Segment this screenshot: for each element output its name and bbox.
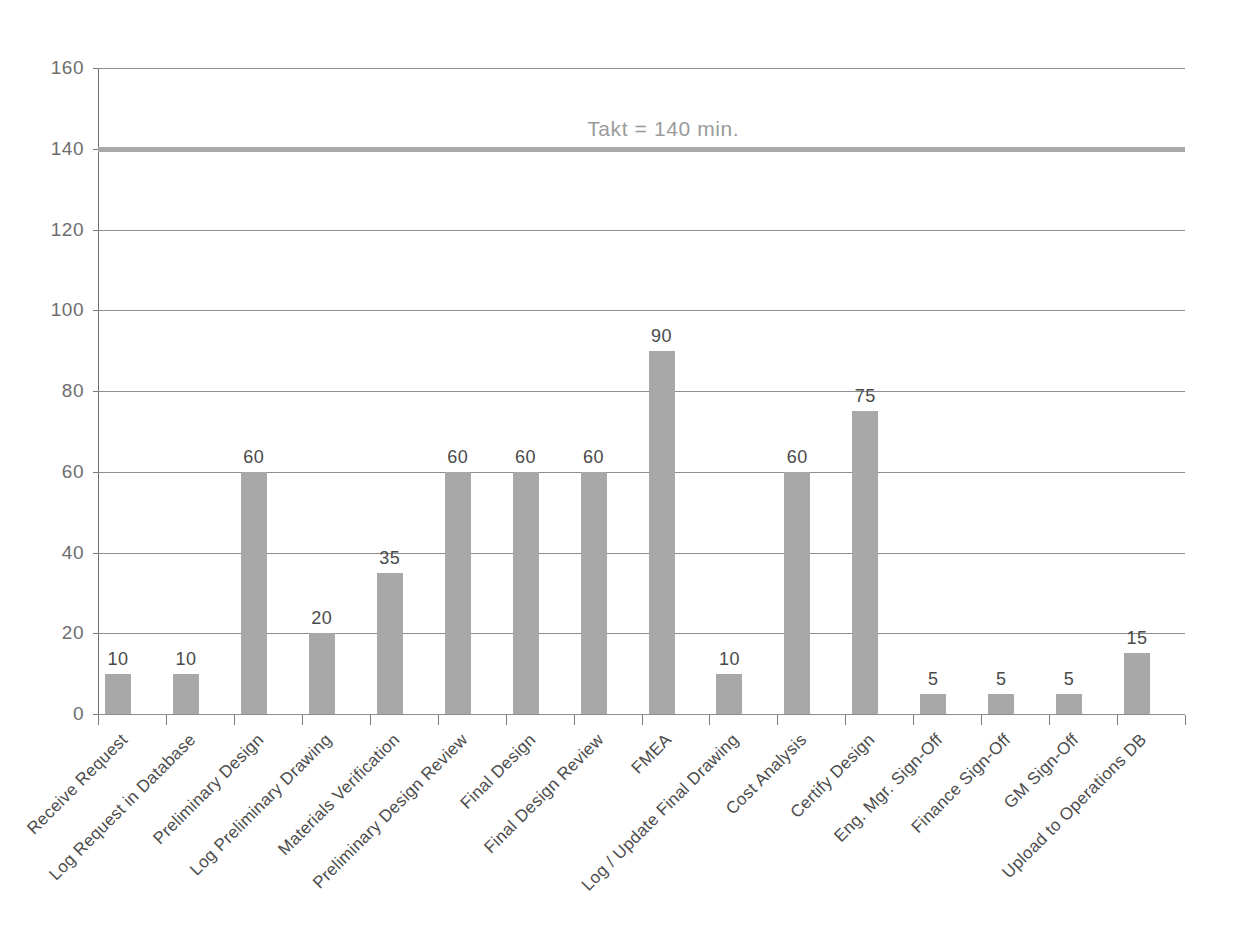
bar <box>784 472 810 714</box>
bar-value-label: 60 <box>243 447 264 472</box>
bar-slot: 60 <box>777 68 845 714</box>
bar-value-label: 75 <box>855 386 876 411</box>
bar-value-label: 60 <box>447 447 468 472</box>
bar-value-label: 60 <box>787 447 808 472</box>
bar-value-label: 15 <box>1127 628 1148 653</box>
bar-chart: 020406080100120140160 101060203560606090… <box>0 0 1234 942</box>
bar <box>309 633 335 714</box>
bar-slot: 75 <box>845 68 913 714</box>
x-tick-mark <box>777 715 778 725</box>
bar-value-label: 60 <box>515 447 536 472</box>
x-tick-mark <box>234 715 235 725</box>
x-tick-mark <box>1117 715 1118 725</box>
bar-value-label: 5 <box>928 669 939 694</box>
bar-slot: 60 <box>438 68 506 714</box>
y-tick-label-60: 60 <box>0 461 84 483</box>
x-tick-mark <box>1049 715 1050 725</box>
bar-slot: 10 <box>709 68 777 714</box>
x-tick-mark <box>1185 715 1186 725</box>
x-tick-mark <box>98 715 99 725</box>
bar <box>173 674 199 714</box>
x-tick-mark <box>845 715 846 725</box>
takt-line-label: Takt = 140 min. <box>587 117 739 141</box>
bar-slot: 5 <box>913 68 981 714</box>
bar-slot: 5 <box>1049 68 1117 714</box>
bar-value-label: 60 <box>583 447 604 472</box>
bar-slot: 60 <box>506 68 574 714</box>
x-category-label: Upload to Operations DB <box>999 730 1152 883</box>
bar <box>649 351 675 714</box>
bar-slot: 20 <box>302 68 370 714</box>
bar-value-label: 10 <box>107 649 128 674</box>
bar <box>445 472 471 714</box>
takt-line <box>98 147 1185 152</box>
bar-value-label: 5 <box>996 669 1007 694</box>
bar <box>988 694 1014 714</box>
bar-slot: 10 <box>98 68 166 714</box>
x-tick-mark <box>370 715 371 725</box>
y-tick-label-20: 20 <box>0 622 84 644</box>
bar-slot: 5 <box>981 68 1049 714</box>
bar-slot: 10 <box>166 68 234 714</box>
bar <box>920 694 946 714</box>
bar <box>241 472 267 714</box>
x-tick-mark <box>574 715 575 725</box>
bar <box>377 573 403 714</box>
bar-slot: 90 <box>642 68 710 714</box>
bar <box>513 472 539 714</box>
x-category-label: FMEA <box>627 730 675 778</box>
bar-value-label: 5 <box>1064 669 1075 694</box>
bar-value-label: 90 <box>651 326 672 351</box>
bar <box>852 411 878 714</box>
bar-value-label: 10 <box>175 649 196 674</box>
bar <box>716 674 742 714</box>
y-tick-label-140: 140 <box>0 138 84 160</box>
bar-slot: 15 <box>1117 68 1185 714</box>
bar <box>581 472 607 714</box>
x-tick-mark <box>506 715 507 725</box>
bar-slot: 60 <box>574 68 642 714</box>
y-tick-label-80: 80 <box>0 380 84 402</box>
y-tick-label-160: 160 <box>0 57 84 79</box>
y-tick-label-100: 100 <box>0 299 84 321</box>
x-category-label: Materials Verification <box>274 730 404 860</box>
x-tick-mark <box>166 715 167 725</box>
bar <box>105 674 131 714</box>
bar-value-label: 10 <box>719 649 740 674</box>
bar-value-label: 35 <box>379 548 400 573</box>
bar <box>1056 694 1082 714</box>
x-tick-mark <box>709 715 710 725</box>
x-tick-mark <box>302 715 303 725</box>
bar-slot: 60 <box>234 68 302 714</box>
x-category-label: Final Design Review <box>480 730 608 858</box>
bar-slot: 35 <box>370 68 438 714</box>
plot-area: 10106020356060609010607555515 Takt = 140… <box>98 68 1185 714</box>
x-tick-mark <box>981 715 982 725</box>
y-tick-label-0: 0 <box>0 703 84 725</box>
x-tick-mark <box>913 715 914 725</box>
y-tick-label-40: 40 <box>0 542 84 564</box>
bar <box>1124 653 1150 714</box>
y-tick-label-120: 120 <box>0 219 84 241</box>
x-tick-mark <box>438 715 439 725</box>
bar-value-label: 20 <box>311 608 332 633</box>
x-tick-mark <box>642 715 643 725</box>
